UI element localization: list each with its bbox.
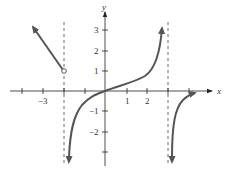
- y-axis-label: y: [101, 2, 106, 12]
- left-linear-piece: [33, 27, 63, 70]
- y-tick-label-3: 3: [94, 25, 99, 35]
- y-tick-label-1: 1: [94, 66, 99, 76]
- middle-branch-curve: [69, 28, 162, 158]
- x-tick-label-minus-3: −3: [38, 96, 48, 106]
- x-tick-label-1: 1: [125, 96, 130, 106]
- function-graph: −3 1 2 3 2 1 −1 −2 x y: [0, 0, 227, 173]
- y-tick-label-minus-1: −1: [89, 106, 99, 116]
- open-circle-point: [62, 69, 67, 74]
- right-branch-curve: [172, 93, 195, 158]
- x-axis-label: x: [216, 86, 221, 96]
- x-tick-label-2: 2: [145, 96, 150, 106]
- y-tick-label-2: 2: [94, 46, 99, 56]
- y-tick-label-minus-2: −2: [89, 127, 99, 137]
